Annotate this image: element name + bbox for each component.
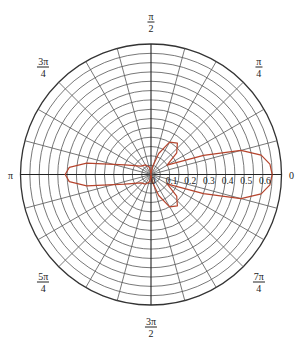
angle-label: π [8, 169, 13, 180]
grid-spoke [151, 61, 216, 174]
grid-spoke [38, 109, 151, 174]
grid-spoke [151, 48, 185, 174]
grid-spoke [86, 175, 151, 288]
grid-spoke [25, 141, 151, 175]
angle-label: 3π2 [145, 316, 157, 339]
grid-spoke [117, 175, 151, 301]
grid-spoke [38, 175, 151, 240]
angle-label: 3π4 [37, 55, 49, 78]
angle-label: 5π4 [37, 271, 49, 294]
radial-tick-label: 0.5 [240, 176, 252, 186]
grid-spoke [151, 82, 243, 174]
radial-tick-label: 0 [151, 176, 156, 186]
grid-spoke [151, 175, 243, 267]
grid-spoke [25, 175, 151, 209]
radial-tick-label: 0.2 [184, 176, 196, 186]
grid-spoke [151, 141, 277, 175]
angle-label: 7π4 [253, 271, 265, 294]
grid-spoke [151, 175, 185, 301]
grid-spoke [59, 175, 151, 267]
angle-label: 0 [289, 169, 294, 180]
radial-tick-label: 0.3 [203, 176, 215, 186]
radial-tick-label: 0.4 [222, 176, 234, 186]
grid-spoke [59, 82, 151, 174]
angle-label: π4 [255, 55, 262, 78]
radial-tick-label: 0.1 [166, 176, 178, 186]
grid-spoke [86, 61, 151, 174]
radial-tick-label: 0.6 [259, 176, 271, 186]
grid-spoke [151, 175, 216, 288]
polar-plot [0, 0, 301, 347]
grid-spoke [117, 48, 151, 174]
angle-label: π2 [147, 11, 154, 34]
